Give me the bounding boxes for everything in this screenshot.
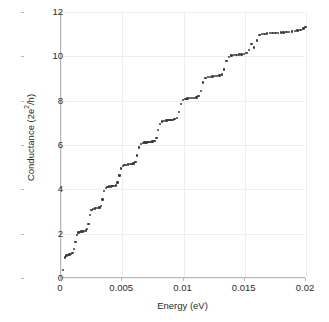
y-axis-tick-label: 12	[37, 7, 63, 17]
data-point	[155, 137, 157, 139]
data-point	[277, 32, 279, 34]
plot-area	[60, 12, 305, 278]
data-point	[115, 184, 117, 186]
data-point	[76, 234, 78, 236]
conductance-chart-figure: 02468101200.0050.010.0150.02 Energy (eV)…	[0, 0, 329, 322]
y-axis-tick-label: 8	[37, 96, 63, 106]
x-axis-tick-mark	[60, 278, 61, 281]
data-point	[178, 111, 180, 113]
data-point	[74, 241, 76, 243]
data-point	[134, 161, 136, 163]
data-point	[157, 129, 159, 131]
x-axis-tick-label: 0.015	[219, 283, 269, 293]
data-point	[250, 43, 252, 45]
y-axis-title-superscript: 2	[23, 105, 30, 109]
data-point	[86, 228, 88, 230]
data-point	[197, 95, 199, 97]
data-point	[120, 167, 122, 169]
data-point	[138, 146, 140, 148]
data-point	[136, 154, 138, 156]
data-point	[159, 123, 161, 125]
data-point	[304, 26, 306, 28]
data-point	[221, 73, 223, 75]
data-point	[253, 46, 255, 48]
data-point	[202, 81, 204, 83]
data-point	[225, 60, 227, 62]
data-point	[200, 90, 202, 92]
data-point	[291, 30, 293, 32]
y-axis-tick-label: 10	[37, 51, 63, 61]
x-axis-tick-mark	[121, 278, 122, 281]
data-point	[87, 223, 89, 225]
data-point	[180, 103, 182, 105]
x-axis-tick-label: 0	[35, 283, 85, 293]
x-axis-tick-mark	[244, 278, 245, 281]
x-axis-tick-label: 0.01	[158, 283, 208, 293]
x-axis-tick-mark	[305, 278, 306, 281]
data-point	[89, 214, 91, 216]
x-axis-title: Energy (eV)	[60, 300, 305, 311]
y-axis-tick-mark	[21, 12, 24, 13]
data-point	[176, 117, 178, 119]
x-axis-tick-mark	[183, 278, 184, 281]
data-point	[245, 52, 247, 54]
data-point	[100, 205, 102, 207]
y-axis-title-prefix: Conductance (2e	[25, 109, 36, 181]
data-point	[73, 248, 75, 250]
data-point	[118, 174, 120, 176]
data-point	[116, 181, 118, 183]
y-axis-tick-mark	[21, 278, 24, 279]
gridline-vertical	[306, 12, 307, 277]
data-point	[223, 68, 225, 70]
data-series-conductance	[61, 12, 305, 277]
data-point	[256, 39, 258, 41]
y-axis-tick-mark	[21, 234, 24, 235]
data-point	[101, 198, 103, 200]
data-point	[248, 49, 250, 51]
y-axis-tick-label: 6	[37, 140, 63, 150]
data-point	[64, 256, 66, 258]
y-axis-title: Conductance (2e2/h)	[25, 53, 36, 223]
data-point	[103, 190, 105, 192]
y-axis-tick-label: 2	[37, 229, 63, 239]
y-axis-tick-label: 4	[37, 184, 63, 194]
x-axis-tick-label: 0.02	[280, 283, 329, 293]
data-point	[153, 140, 155, 142]
x-axis-tick-label: 0.005	[96, 283, 146, 293]
y-axis-title-suffix: /h)	[25, 94, 36, 105]
